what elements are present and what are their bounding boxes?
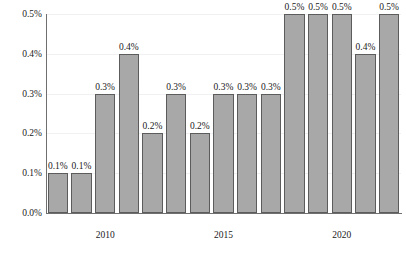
bar-value-label: 0.4% [119,42,139,53]
y-axis-tick-label: 0.0% [2,208,42,218]
bar-rect[interactable] [48,173,68,213]
bar-rect[interactable] [213,94,233,213]
bar-value-label: 0.1% [48,161,68,172]
bar-item[interactable]: 0.2% [190,14,210,213]
bar-item[interactable]: 0.3% [213,14,233,213]
y-axis-tick-label: 0.2% [2,128,42,138]
x-axis-tick-label: 2010 [96,230,115,241]
bar-rect[interactable] [284,14,304,213]
y-axis-tick-label: 0.5% [2,9,42,19]
bar-value-label: 0.3% [261,82,281,93]
x-axis-tick-label: 2020 [332,230,351,241]
bar-value-label: 0.5% [308,2,328,13]
bar-item[interactable]: 0.5% [332,14,352,213]
bar-item[interactable]: 0.5% [284,14,304,213]
plot-area: 0.1%0.1%0.3%0.4%0.2%0.3%0.2%0.3%0.3%0.3%… [46,14,401,213]
x-axis-tick-label: 2015 [214,230,233,241]
bar-rect[interactable] [355,54,375,213]
bar-value-label: 0.3% [166,82,186,93]
bar-value-label: 0.3% [214,82,234,93]
y-axis-tick-labels: 0.0%0.1%0.2%0.3%0.4%0.5% [0,0,42,260]
bar-rect[interactable] [190,133,210,213]
bar-value-label: 0.4% [356,42,376,53]
y-axis-tick-label: 0.3% [2,89,42,99]
bar-item[interactable]: 0.4% [119,14,139,213]
bar-rect[interactable] [119,54,139,213]
bar-value-label: 0.1% [72,161,92,172]
bar-item[interactable]: 0.5% [308,14,328,213]
bar-rect[interactable] [166,94,186,213]
bar-value-label: 0.2% [190,121,210,132]
bar-value-label: 0.2% [143,121,163,132]
bar-item[interactable]: 0.3% [237,14,257,213]
bar-rect[interactable] [142,133,162,213]
bar-rect[interactable] [332,14,352,213]
bar-value-label: 0.3% [95,82,115,93]
bar-item[interactable]: 0.1% [48,14,68,213]
bar-item[interactable]: 0.5% [379,14,399,213]
bar-rect[interactable] [379,14,399,213]
bar-item[interactable]: 0.3% [166,14,186,213]
bar-rect[interactable] [71,173,91,213]
bar-item[interactable]: 0.3% [95,14,115,213]
bar-rect[interactable] [308,14,328,213]
bar-item[interactable]: 0.4% [355,14,375,213]
bar-item[interactable]: 0.1% [71,14,91,213]
bar-value-label: 0.5% [332,2,352,13]
bar-item[interactable]: 0.3% [261,14,281,213]
y-axis-tick-label: 0.4% [2,49,42,59]
bar-rect[interactable] [261,94,281,213]
y-axis-tick-label: 0.1% [2,168,42,178]
bar-rect[interactable] [237,94,257,213]
bar-chart: 0.0%0.1%0.2%0.3%0.4%0.5% 0.1%0.1%0.3%0.4… [0,0,406,260]
bar-rect[interactable] [95,94,115,213]
x-axis-line [46,213,402,214]
y-axis-line [46,14,47,214]
bar-value-label: 0.5% [379,2,399,13]
bar-series: 0.1%0.1%0.3%0.4%0.2%0.3%0.2%0.3%0.3%0.3%… [46,14,401,213]
bar-value-label: 0.5% [285,2,305,13]
bar-item[interactable]: 0.2% [142,14,162,213]
bar-value-label: 0.3% [237,82,257,93]
